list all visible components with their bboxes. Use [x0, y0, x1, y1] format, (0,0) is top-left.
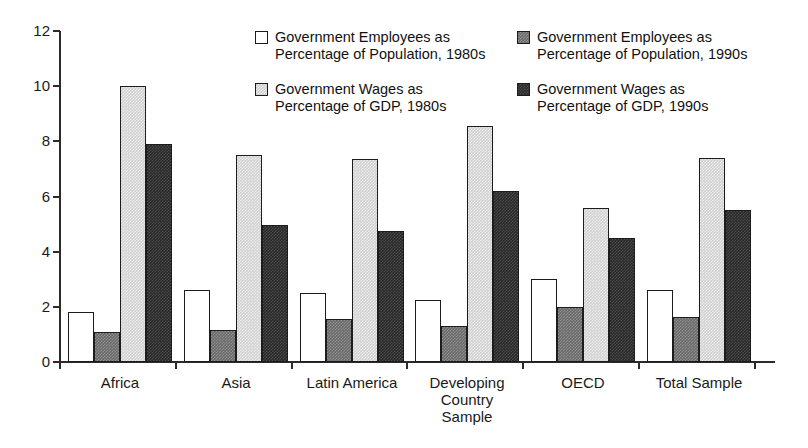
- bar: [352, 159, 378, 362]
- legend-label: Government Wages as Percentage of GDP, 1…: [537, 81, 708, 115]
- x-axis-tick: [638, 363, 640, 369]
- legend-swatch-icon: [517, 31, 530, 44]
- bar: [120, 86, 146, 362]
- bar: [184, 290, 210, 362]
- bar: [699, 158, 725, 362]
- bar: [467, 126, 493, 362]
- bar-chart: 024681012 AfricaAsiaLatin AmericaDevelop…: [0, 0, 808, 448]
- bar: [378, 231, 404, 362]
- x-axis-tick: [754, 363, 756, 369]
- y-axis-tick: [53, 85, 60, 87]
- bar: [326, 319, 352, 362]
- x-axis-tick: [522, 363, 524, 369]
- x-axis-tick: [59, 363, 61, 369]
- legend-item: Government Wages as Percentage of GDP, 1…: [255, 81, 446, 115]
- legend-swatch-icon: [255, 31, 268, 44]
- x-axis-category-label: Africa: [60, 374, 180, 391]
- y-axis-tick-label: 2: [16, 299, 50, 314]
- bar: [415, 300, 441, 362]
- bar: [146, 144, 172, 362]
- y-axis-tick: [53, 196, 60, 198]
- bar: [236, 155, 262, 362]
- legend-item: Government Employees as Percentage of Po…: [255, 29, 485, 63]
- y-axis-tick: [53, 140, 60, 142]
- y-axis-tick-label: 6: [16, 189, 50, 204]
- legend: Government Employees as Percentage of Po…: [255, 29, 795, 129]
- legend-label: Government Employees as Percentage of Po…: [275, 29, 485, 63]
- bar: [493, 191, 519, 362]
- bar: [725, 210, 751, 362]
- x-axis-category-label: DevelopingCountrySample: [407, 374, 527, 425]
- legend-swatch-icon: [255, 83, 268, 96]
- bar: [300, 293, 326, 362]
- legend-label: Government Wages as Percentage of GDP, 1…: [275, 81, 446, 115]
- y-axis-tick-label: 8: [16, 133, 50, 148]
- y-axis-tick-label: 12: [16, 23, 50, 38]
- bar: [262, 225, 288, 362]
- bar: [609, 238, 635, 362]
- x-axis-category-label: Asia: [176, 374, 296, 391]
- legend-item: Government Wages as Percentage of GDP, 1…: [517, 81, 708, 115]
- y-axis-tick-label: 0: [16, 354, 50, 369]
- x-axis-category-label: OECD: [523, 374, 643, 391]
- x-axis-tick: [175, 363, 177, 369]
- bar: [557, 307, 583, 362]
- bar: [94, 332, 120, 362]
- legend-item: Government Employees as Percentage of Po…: [517, 29, 747, 63]
- x-axis-tick: [291, 363, 293, 369]
- legend-label: Government Employees as Percentage of Po…: [537, 29, 747, 63]
- x-axis-category-label: Total Sample: [639, 374, 759, 391]
- y-axis-tick-label: 10: [16, 78, 50, 93]
- bar: [68, 312, 94, 362]
- bar: [531, 279, 557, 362]
- y-axis-tick-label: 4: [16, 244, 50, 259]
- y-axis-tick: [53, 30, 60, 32]
- y-axis-tick: [53, 251, 60, 253]
- x-axis-category-label: Latin America: [292, 374, 412, 391]
- bar: [647, 290, 673, 362]
- bar: [673, 317, 699, 363]
- bar: [210, 330, 236, 362]
- bar: [583, 208, 609, 362]
- x-axis-tick: [406, 363, 408, 369]
- y-axis-tick: [53, 306, 60, 308]
- legend-swatch-icon: [517, 83, 530, 96]
- bar: [441, 326, 467, 362]
